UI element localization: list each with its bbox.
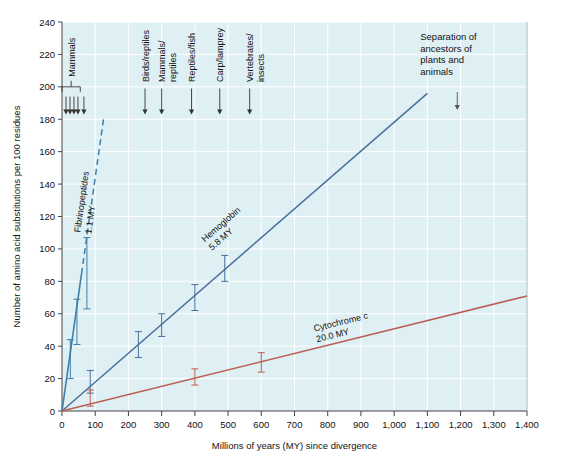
y-axis-tick-label: 220 — [39, 49, 55, 60]
y-axis-tick-label: 20 — [44, 373, 55, 384]
y-axis-tick-label: 40 — [44, 341, 55, 352]
x-axis-tick-label: 600 — [253, 419, 269, 430]
x-axis-tick-label: 100 — [87, 419, 103, 430]
x-axis-title: Millions of years (MY) since divergence — [212, 440, 377, 451]
y-axis-title: Number of amino acid substitutions per 1… — [11, 105, 22, 327]
x-axis-tick-label: 700 — [287, 419, 303, 430]
x-axis-tick-label: 200 — [120, 419, 136, 430]
separation-note-line-1: Separation of — [420, 31, 477, 42]
x-axis-tick-label: 1,300 — [482, 419, 506, 430]
x-axis-tick-label: 300 — [154, 419, 170, 430]
x-axis-tick-label: 500 — [220, 419, 236, 430]
y-axis-tick-label: 240 — [39, 17, 55, 28]
x-axis-tick-label: 1,100 — [415, 419, 439, 430]
x-axis-tick-label: 1,000 — [382, 419, 406, 430]
divergence-label-2: Reptiles/fish — [187, 33, 197, 82]
separation-note-line-2: ancestors of — [420, 43, 472, 54]
molecular-clock-chart: 0204060801001201401601802002202400100200… — [0, 0, 561, 460]
divergence-label-1-line0: Mammals/ — [157, 40, 167, 82]
x-axis-tick-label: 1,200 — [449, 419, 473, 430]
y-axis-tick-label: 180 — [39, 114, 55, 125]
y-axis-tick-label: 200 — [39, 81, 55, 92]
chart-figure: 0204060801001201401601802002202400100200… — [0, 0, 561, 460]
x-axis-tick-label: 400 — [187, 419, 203, 430]
divergence-label-3: Carp/lamprey — [215, 27, 225, 82]
y-axis-tick-label: 80 — [44, 276, 55, 287]
separation-note-line-3: plants and — [420, 54, 464, 65]
y-axis-tick-label: 0 — [50, 406, 55, 417]
x-axis-tick-label: 800 — [320, 419, 336, 430]
y-axis-tick-label: 120 — [39, 211, 55, 222]
y-axis-tick-label: 100 — [39, 243, 55, 254]
y-axis-tick-label: 60 — [44, 308, 55, 319]
x-axis-tick-label: 1,400 — [515, 419, 539, 430]
mammals-bracket-label: Mammals — [67, 37, 77, 77]
divergence-label-4-line1: insects — [256, 53, 266, 82]
divergence-label-4-line0: Vertebrates/ — [245, 33, 255, 82]
x-axis-tick-label: 900 — [353, 419, 369, 430]
divergence-label-1-line1: reptiles — [168, 52, 178, 82]
y-axis-tick-label: 140 — [39, 179, 55, 190]
separation-note-line-4: animals — [420, 66, 453, 77]
y-axis-tick-label: 160 — [39, 146, 55, 157]
divergence-label-0: Birds/reptiles — [141, 29, 151, 82]
x-axis-tick-label: 0 — [59, 419, 64, 430]
